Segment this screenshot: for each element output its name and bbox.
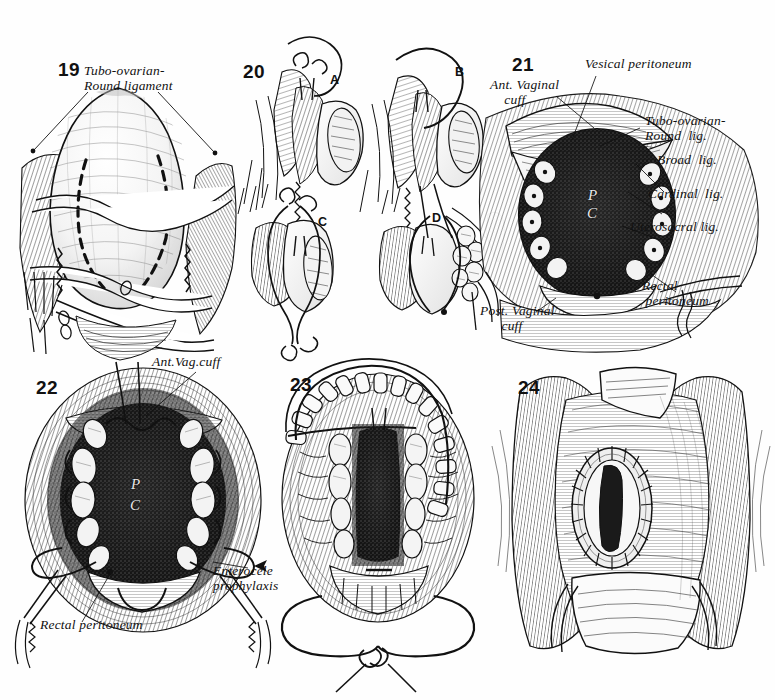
- label-ant-vaginal-cuff: Ant. Vaginal cuff: [490, 78, 559, 107]
- figure-23-artwork: [282, 359, 474, 692]
- figure-number-22: 22: [36, 378, 58, 397]
- plate-artwork: [0, 0, 775, 700]
- figure-20-panel-label-a: A: [330, 74, 339, 87]
- figure-number-21: 21: [512, 55, 534, 74]
- figure-24-artwork: [492, 367, 770, 653]
- label-broad-lig: Broad lig.: [657, 153, 717, 168]
- label-cardinal-lig: Cardinal lig.: [648, 187, 723, 202]
- figure-20-panel-label-b: B: [455, 66, 464, 79]
- illustration-plate: 19 Tubo-ovarian- Round ligament 20 A B C…: [0, 0, 775, 700]
- label-vesical-peritoneum: Vesical peritoneum: [585, 57, 692, 72]
- label-enterocele-prophylaxis: Enterocele prophylaxis: [213, 564, 278, 593]
- figure-21-cavity-mark-c: C: [587, 206, 597, 222]
- figure-21-cavity-mark-p: P: [588, 188, 597, 204]
- figure-20-panel-label-d: D: [432, 212, 441, 225]
- figure-22-cavity-mark-c: C: [130, 498, 140, 514]
- label-ant-vag-cuff: Ant.Vag.cuff: [152, 355, 220, 370]
- figure-22-cavity-mark-p: P: [131, 477, 140, 493]
- figure-20-panel-b: [360, 48, 486, 246]
- label-tubo-ovarian-round-ligament-19: Tubo-ovarian- Round ligament: [84, 64, 173, 93]
- label-uterosacral-lig: Uterosacral lig.: [630, 220, 719, 235]
- figure-number-19: 19: [58, 60, 80, 79]
- figure-number-24: 24: [518, 378, 540, 397]
- figure-number-23: 23: [290, 375, 312, 394]
- figure-20-panel-c: [238, 184, 335, 361]
- label-tubo-ovarian-round-lig: Tubo-ovarian- Round lig.: [645, 114, 726, 143]
- figure-20-artwork: [238, 37, 504, 361]
- label-rectal-peritoneum-22: Rectal peritoneum: [40, 618, 143, 633]
- label-post-vaginal-cuff: Post. Vaginal cuff: [480, 304, 555, 333]
- figure-number-20: 20: [243, 62, 265, 81]
- figure-20-panel-label-c: C: [318, 216, 327, 229]
- figure-19-artwork: [20, 88, 236, 360]
- label-rectal-peritoneum-21: Rectal peritoneum: [642, 279, 709, 308]
